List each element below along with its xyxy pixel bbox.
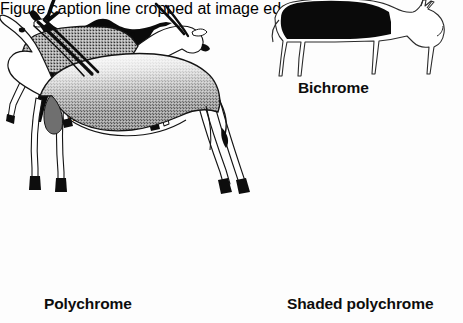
rock-art-technique-figure: Monochrome Bichrome — [0, 0, 463, 323]
shaded-body-gradient-overlay — [40, 53, 220, 130]
shaded-polychrome-hooves — [29, 176, 250, 194]
shaded-eye — [19, 28, 25, 33]
bichrome-caption: Bichrome — [298, 79, 369, 97]
shaded-polychrome-animal — [0, 15, 250, 194]
shaded-rear-leg-back — [31, 98, 42, 182]
bichrome-black-body-patch — [281, 1, 391, 39]
shaded-polychrome-caption: Shaded polychrome — [287, 295, 433, 313]
shaded-front-leg-front — [214, 100, 246, 186]
bichrome-animal — [272, 0, 444, 76]
shaded-body-group — [40, 53, 220, 130]
polychrome-caption: Polychrome — [44, 295, 132, 313]
shaded-polychrome-figure-artwork — [0, 0, 258, 216]
